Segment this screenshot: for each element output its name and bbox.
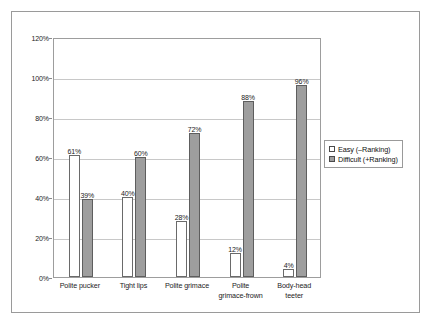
x-axis-tick-label: Politegrimace-frown xyxy=(214,281,268,301)
legend-swatch-easy-icon xyxy=(329,146,335,152)
chart-frame: 0%20%40%60%80%100%120% 61%39%40%60%28%72… xyxy=(11,11,420,313)
y-axis-tick-mark xyxy=(49,118,52,119)
bar-difficult: 39% xyxy=(82,199,93,277)
y-axis-tick-mark xyxy=(49,278,52,279)
y-axis-tick-mark xyxy=(49,158,52,159)
y-axis-tick-mark xyxy=(49,78,52,79)
y-axis-tick-mark xyxy=(49,238,52,239)
bar-easy: 12% xyxy=(230,253,241,277)
bar-value-label: 60% xyxy=(134,150,148,157)
bar-value-label: 96% xyxy=(295,78,309,85)
legend-item-difficult: Difficult (+Ranking) xyxy=(329,154,398,164)
bar-group: 61%39% xyxy=(54,39,108,277)
y-axis-tick-label: 100% xyxy=(31,75,49,82)
x-axis-tick-label-line: Body-head xyxy=(277,281,311,290)
bar-group: 12%88% xyxy=(215,39,269,277)
y-axis-tick-label: 80% xyxy=(35,115,49,122)
bar-easy: 28% xyxy=(176,221,187,277)
x-axis-tick-label-line: Polite pucker xyxy=(60,281,100,290)
x-axis-category-labels: Polite puckerTight lipsPolite grimacePol… xyxy=(53,281,321,313)
bar-value-label: 39% xyxy=(80,192,94,199)
chart-legend: Easy (–Ranking)Difficult (+Ranking) xyxy=(324,140,403,168)
bar-easy: 4% xyxy=(283,269,294,277)
x-axis-tick-label-line: teeter xyxy=(267,291,321,301)
legend-item-easy: Easy (–Ranking) xyxy=(329,144,398,154)
x-axis-tick-label-line: Polite xyxy=(232,281,249,290)
y-axis-tick-label: 20% xyxy=(35,235,49,242)
bar-value-label: 88% xyxy=(241,94,255,101)
bar-group: 4%96% xyxy=(268,39,322,277)
bar-group: 28%72% xyxy=(161,39,215,277)
bar-value-label: 72% xyxy=(188,126,202,133)
bar-easy: 61% xyxy=(69,155,80,277)
bar-value-label: 12% xyxy=(228,246,242,253)
bar-difficult: 88% xyxy=(243,101,254,277)
bar-difficult: 60% xyxy=(135,157,146,277)
x-axis-tick-label-line: grimace-frown xyxy=(214,291,268,301)
y-axis-tick-label: 60% xyxy=(35,155,49,162)
y-axis-tick-label: 120% xyxy=(31,35,49,42)
bar-difficult: 96% xyxy=(296,85,307,277)
y-axis-tick-mark xyxy=(49,198,52,199)
legend-label: Difficult (+Ranking) xyxy=(338,155,398,164)
bar-difficult: 72% xyxy=(189,133,200,277)
bar-value-label: 4% xyxy=(284,262,294,269)
legend-label: Easy (–Ranking) xyxy=(338,145,390,154)
x-axis-tick-label: Body-headteeter xyxy=(267,281,321,301)
x-axis-tick-label: Polite pucker xyxy=(53,281,107,291)
y-axis-tick-mark xyxy=(49,38,52,39)
x-axis-tick-label: Tight lips xyxy=(107,281,161,291)
y-axis-tick-label: 40% xyxy=(35,195,49,202)
x-axis-tick-label-line: Tight lips xyxy=(120,281,148,290)
x-axis-tick-label-line: Polite grimace xyxy=(165,281,209,290)
bar-value-label: 40% xyxy=(121,190,135,197)
bar-value-label: 28% xyxy=(175,214,189,221)
plot-area: 61%39%40%60%28%72%12%88%4%96% xyxy=(53,38,321,278)
x-axis-tick-label: Polite grimace xyxy=(160,281,214,291)
legend-swatch-difficult-icon xyxy=(329,156,335,162)
y-axis: 0%20%40%60%80%100%120% xyxy=(12,38,49,278)
bar-easy: 40% xyxy=(122,197,133,277)
bar-group: 40%60% xyxy=(108,39,162,277)
bar-value-label: 61% xyxy=(67,148,81,155)
y-axis-tick-label: 0% xyxy=(39,275,49,282)
